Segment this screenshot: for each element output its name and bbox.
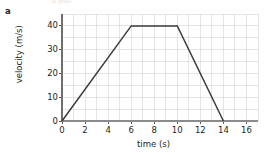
x-tick-label: 4 bbox=[98, 126, 118, 135]
y-tick-label: 40 bbox=[47, 21, 58, 30]
y-tick-label: 20 bbox=[47, 69, 58, 78]
x-tick-label: 16 bbox=[236, 126, 256, 135]
x-tick-label: 8 bbox=[144, 126, 164, 135]
x-tick-label: 0 bbox=[52, 126, 72, 135]
part-label: a bbox=[5, 7, 11, 16]
x-tick-label: 2 bbox=[75, 126, 95, 135]
x-tick-label: 14 bbox=[213, 126, 233, 135]
y-axis-title: velocity (m/s) bbox=[15, 9, 24, 99]
velocity-series-line bbox=[62, 26, 223, 121]
data-layer bbox=[62, 14, 258, 121]
velocity-time-graph-figure: a goal. a 010203040 0246810121416 time (… bbox=[0, 0, 271, 155]
x-tick-label: 12 bbox=[190, 126, 210, 135]
x-axis-tick-labels: 0246810121416 bbox=[0, 126, 271, 140]
x-axis-title-text: time (s) bbox=[137, 139, 170, 149]
x-tick-label: 10 bbox=[167, 126, 187, 135]
y-tick-label: 0 bbox=[53, 117, 58, 126]
x-axis-title: time (s) bbox=[0, 140, 271, 149]
plot-area bbox=[62, 14, 258, 121]
y-tick-label: 30 bbox=[47, 45, 58, 54]
x-tick-label: 6 bbox=[121, 126, 141, 135]
y-tick-label: 10 bbox=[47, 93, 58, 102]
